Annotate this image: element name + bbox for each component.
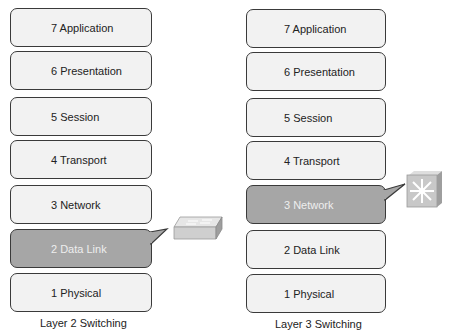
layer-label: 7 Application [51, 22, 113, 34]
layer-label: 5 Session [284, 112, 332, 124]
layer-network-highlighted: 3 Network [246, 185, 386, 224]
layer-data-link: 2 Data Link [246, 230, 386, 269]
layer-label: 6 Presentation [51, 65, 122, 77]
layer-application: 7 Application [246, 9, 386, 48]
layer-application: 7 Application [10, 8, 152, 47]
layer-physical: 1 Physical [10, 273, 152, 312]
layer-label: 3 Network [51, 199, 101, 211]
layer-label: 2 Data Link [284, 244, 340, 256]
layer-transport: 4 Transport [10, 140, 152, 179]
layer-session: 5 Session [10, 97, 152, 136]
layer-label: 6 Presentation [284, 66, 355, 78]
layer-presentation: 6 Presentation [10, 51, 152, 90]
layer-label: 5 Session [51, 111, 99, 123]
layer-session: 5 Session [246, 98, 386, 137]
layer-label: 4 Transport [51, 154, 107, 166]
layer-label: 4 Transport [284, 155, 340, 167]
layer2-switch-icon [172, 215, 224, 245]
layer-label: 1 Physical [284, 288, 334, 300]
layer-label: 7 Application [284, 23, 346, 35]
layer3-switch-icon [405, 171, 445, 211]
layer-physical: 1 Physical [246, 274, 386, 313]
layer-label: 2 Data Link [51, 243, 107, 255]
layer-data-link-highlighted: 2 Data Link [10, 229, 152, 268]
layer-transport: 4 Transport [246, 141, 386, 180]
caption-layer2: Layer 2 Switching [40, 317, 127, 329]
caption-layer3: Layer 3 Switching [275, 318, 362, 330]
layer-label: 3 Network [284, 199, 334, 211]
layer-presentation: 6 Presentation [246, 52, 386, 91]
layer-label: 1 Physical [51, 287, 101, 299]
layer-network: 3 Network [10, 185, 152, 224]
